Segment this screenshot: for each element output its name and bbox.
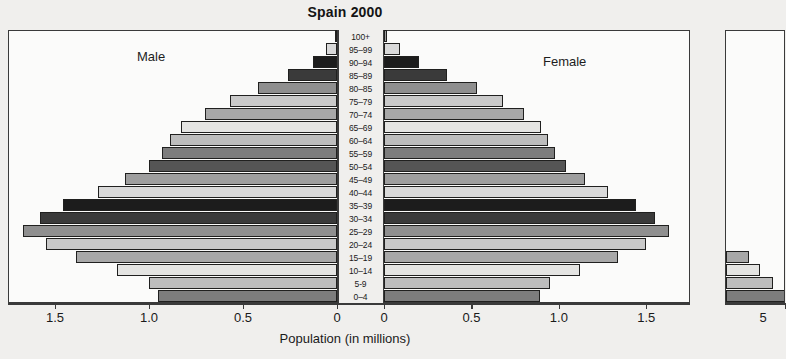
female-0-tick-label: 0 <box>380 310 387 325</box>
bar-female-95–99 <box>384 43 400 55</box>
neighbor-bar-15–19 <box>726 251 749 263</box>
age-label-100+: 100+ <box>337 32 384 42</box>
age-label-95–99: 95–99 <box>337 45 384 55</box>
bar-male-25–29 <box>23 225 337 237</box>
female-1.5-tick <box>646 303 647 309</box>
bar-female-40–44 <box>384 186 608 198</box>
bar-male-90–94 <box>313 56 337 68</box>
bar-male-70–74 <box>205 108 337 120</box>
bar-female-85–89 <box>384 69 447 81</box>
neighbor-bar-0–4 <box>726 290 785 302</box>
age-label-25–29: 25–29 <box>337 227 384 237</box>
neighbor-tick-label: 5 <box>759 310 766 325</box>
male-0-tick-label: 0 <box>333 310 340 325</box>
female-1.0-tick <box>559 303 560 309</box>
bar-female-30–34 <box>384 212 655 224</box>
age-label-10–14: 10–14 <box>337 266 384 276</box>
bar-female-60–64 <box>384 134 548 146</box>
age-label-30–34: 30–34 <box>337 214 384 224</box>
bar-female-70–74 <box>384 108 524 120</box>
male-1.5-tick-label: 1.5 <box>46 310 64 325</box>
male-side-label: Male <box>137 49 165 64</box>
bar-female-65–69 <box>384 121 541 133</box>
bar-female-15–19 <box>384 251 618 263</box>
age-group-labels: 100+95–9990–9485–8980–8575–7970–7465–696… <box>337 30 384 303</box>
age-label-85–89: 85–89 <box>337 71 384 81</box>
age-label-90–94: 90–94 <box>337 58 384 68</box>
bar-male-50–54 <box>149 160 337 172</box>
female-0.5-tick <box>471 303 472 309</box>
age-label-50–54: 50–54 <box>337 162 384 172</box>
age-label-15–19: 15–19 <box>337 253 384 263</box>
bar-male-30–34 <box>40 212 337 224</box>
age-label-65–69: 65–69 <box>337 123 384 133</box>
bar-male-55–59 <box>162 147 337 159</box>
bar-female-0–4 <box>384 290 540 302</box>
female-0-tick <box>384 303 385 309</box>
age-label-40–44: 40–44 <box>337 188 384 198</box>
bar-male-20–24 <box>46 238 337 250</box>
bar-female-20–24 <box>384 238 646 250</box>
bar-female-75–79 <box>384 95 503 107</box>
bar-male-5-9 <box>149 277 337 289</box>
bar-female-35–39 <box>384 199 636 211</box>
bar-male-60–64 <box>170 134 337 146</box>
male-1.0-tick <box>149 303 150 309</box>
bar-male-75–79 <box>230 95 337 107</box>
bar-female-5-9 <box>384 277 550 289</box>
bar-male-45–49 <box>125 173 337 185</box>
bar-female-45–49 <box>384 173 585 185</box>
neighbor-bar-10–14 <box>726 264 760 276</box>
bar-female-80–85 <box>384 82 477 94</box>
bar-male-0–4 <box>158 290 337 302</box>
age-label-55–59: 55–59 <box>337 149 384 159</box>
neighbor-bar-5-9 <box>726 277 773 289</box>
female-side-label: Female <box>543 54 586 69</box>
bar-male-95–99 <box>326 43 337 55</box>
age-label-45–49: 45–49 <box>337 175 384 185</box>
male-0.5-tick-label: 0.5 <box>234 310 252 325</box>
age-label-80–85: 80–85 <box>337 84 384 94</box>
bar-female-90–94 <box>384 56 419 68</box>
age-label-35–39: 35–39 <box>337 201 384 211</box>
male-1.5-tick <box>55 303 56 309</box>
age-label-0–4: 0–4 <box>337 292 384 302</box>
bar-female-50–54 <box>384 160 566 172</box>
male-1.0-tick-label: 1.0 <box>140 310 158 325</box>
male-0.5-tick <box>243 303 244 309</box>
bar-female-55–59 <box>384 147 555 159</box>
bar-male-80–85 <box>258 82 337 94</box>
bar-female-10–14 <box>384 264 580 276</box>
bar-male-40–44 <box>98 186 337 198</box>
neighbor-x-axis-line <box>725 303 785 305</box>
age-label-20–24: 20–24 <box>337 240 384 250</box>
neighbor-chart-frame <box>725 30 785 303</box>
age-label-60–64: 60–64 <box>337 136 384 146</box>
female-1.5-tick-label: 1.5 <box>637 310 655 325</box>
x-axis-title: Population (in millions) <box>0 331 690 346</box>
bar-male-10–14 <box>117 264 337 276</box>
bar-female-100+ <box>384 30 387 42</box>
bar-male-15–19 <box>76 251 337 263</box>
bar-male-85–89 <box>288 69 337 81</box>
age-label-70–74: 70–74 <box>337 110 384 120</box>
bar-female-25–29 <box>384 225 669 237</box>
age-label-5-9: 5-9 <box>337 279 384 289</box>
age-label-75–79: 75–79 <box>337 97 384 107</box>
female-0.5-tick-label: 0.5 <box>462 310 480 325</box>
male-0-tick <box>337 303 338 309</box>
x-axis-line <box>8 303 690 305</box>
bar-male-65–69 <box>181 121 337 133</box>
bar-male-35–39 <box>63 199 337 211</box>
female-1.0-tick-label: 1.0 <box>550 310 568 325</box>
age-label-gutter: 100+95–9990–9485–8980–8575–7970–7465–696… <box>337 30 384 303</box>
